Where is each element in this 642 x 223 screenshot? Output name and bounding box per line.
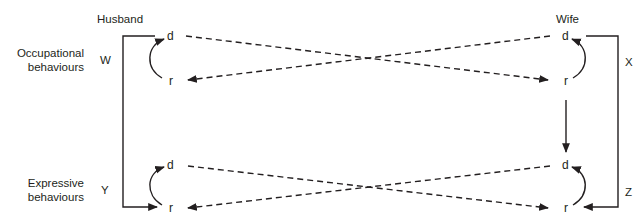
husband-expressive-curve-arrow (150, 167, 164, 205)
wife-expressive-r-node: r (564, 202, 568, 214)
expressive-behaviours-label: Expressive behaviours (0, 176, 84, 204)
husband-expressive-r-node: r (169, 202, 173, 214)
diagram-lines (0, 0, 642, 223)
wife-bracket-arrow (584, 36, 618, 207)
husband-occupational-r-node: r (169, 75, 173, 87)
wife-column-label: Wife (556, 12, 579, 26)
occupational-label-line1: Occupational (0, 46, 84, 60)
husband-column-label: Husband (97, 12, 143, 26)
path-label-y: Y (101, 183, 109, 197)
expressive-label-line1: Expressive (0, 176, 84, 190)
occupational-label-line2: behaviours (0, 60, 84, 74)
wife-occupational-curve-arrow (572, 39, 585, 78)
path-label-z: Z (625, 185, 632, 199)
path-label-w: W (100, 53, 111, 67)
occupational-behaviours-label: Occupational behaviours (0, 46, 84, 74)
expressive-label-line2: behaviours (0, 190, 84, 204)
husband-occupational-curve-arrow (150, 39, 164, 78)
path-label-x: X (625, 55, 633, 69)
wife-expressive-d-node: d (562, 159, 569, 171)
wife-occupational-r-node: r (564, 75, 568, 87)
husband-bracket-arrow (123, 36, 157, 207)
wife-occupational-d-node: d (562, 30, 569, 42)
wife-expressive-curve-arrow (572, 167, 585, 205)
husband-occupational-d-node: d (167, 30, 174, 42)
husband-expressive-d-node: d (167, 159, 174, 171)
